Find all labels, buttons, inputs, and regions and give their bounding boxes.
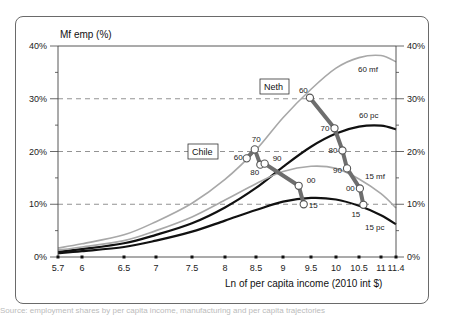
neth-label: Neth [264,82,283,92]
x-tick-marker [57,256,60,259]
x-tick-marker [255,256,258,259]
label-60pc: 60 pc [359,111,379,120]
y-tick-label-left: 30% [29,94,47,104]
point-neth-60 [306,94,313,101]
x-axis-title: Ln of per capita income (2010 int $) [225,278,382,289]
y-axis-title: Mf emp (%) [60,29,112,40]
point-neth-00 [356,185,363,192]
year-label: 60 [299,86,308,95]
axes: 0%0%10%10%20%20%30%30%40%40%5.766.577.58… [29,41,425,273]
label-15mf: 15 mf [365,172,386,181]
point-neth-90 [343,165,350,172]
point-chile-70 [251,146,258,153]
year-label: 80 [328,146,337,155]
x-tick-marker [395,256,398,259]
year-label: 80 [250,168,259,177]
line-chart: 0%0%10%10%20%20%30%30%40%40%5.766.577.58… [0,0,452,317]
x-tick-marker [224,256,227,259]
year-label: 00 [346,184,355,193]
x-tick-marker [335,256,338,259]
point-chile-00 [295,182,302,189]
point-chile-90 [261,160,268,167]
year-label: 15 [351,210,360,219]
caption: Source: employment shares by per capita … [0,306,452,317]
y-tick-label-left: 10% [29,199,47,209]
x-tick-label: 7 [153,263,158,273]
point-neth-15 [360,201,367,208]
country-trajectories: 607080900015607080900015 [234,86,367,219]
x-tick-label: 11.4 [388,263,405,273]
year-label: 90 [273,154,282,163]
y-tick-label-left: 40% [29,41,47,51]
label-15pc: 15 pc [365,223,385,232]
x-tick-label: 10 [331,263,341,273]
year-label: 70 [321,124,330,133]
y-tick-label-right: 10% [407,199,425,209]
year-label: 90 [333,166,342,175]
x-tick-marker [155,256,158,259]
x-tick-marker [358,256,361,259]
chile-label: Chile [192,147,213,157]
y-tick-label-right: 0% [407,252,420,262]
x-tick-label: 8 [222,263,227,273]
y-tick-label-right: 40% [407,41,425,51]
x-tick-marker [81,256,84,259]
point-chile-60 [243,155,250,162]
year-label: 15 [309,201,318,210]
x-tick-label: 11 [376,263,385,273]
x-tick-label: 9 [280,263,285,273]
x-tick-marker [380,256,383,259]
x-tick-label: 6.5 [118,263,131,273]
x-tick-label: 8.5 [250,263,263,273]
year-label: 60 [234,153,243,162]
x-tick-marker [123,256,126,259]
x-tick-marker [191,256,194,259]
x-tick-label: 6 [79,263,84,273]
x-tick-marker [282,256,285,259]
label-60mf: 60 mf [358,65,379,74]
x-tick-label: 7.5 [186,263,199,273]
x-tick-label: 5.7 [52,263,65,273]
y-tick-label-left: 0% [34,252,47,262]
point-neth-80 [339,147,346,154]
year-label: 00 [307,176,316,185]
y-tick-label-right: 30% [407,94,425,104]
x-tick-label: 9.5 [305,263,318,273]
x-tick-marker [310,256,313,259]
y-tick-label-right: 20% [407,147,425,157]
year-label: 70 [252,135,261,144]
y-tick-label-left: 20% [29,147,47,157]
point-chile-15 [300,201,307,208]
x-tick-label: 10.5 [350,263,368,273]
point-neth-70 [331,125,338,132]
